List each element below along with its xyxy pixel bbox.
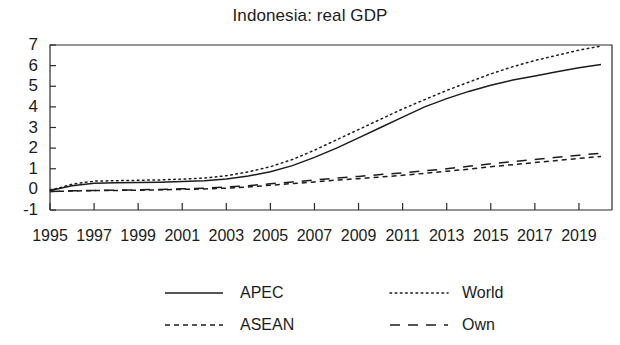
plot-frame [50, 45, 612, 210]
y-tick-label: 3 [4, 119, 38, 136]
y-tick-label: 7 [4, 36, 38, 53]
legend-label-asean: ASEAN [240, 317, 294, 333]
x-tick-label: 2019 [556, 228, 602, 244]
legend-marks [165, 293, 448, 325]
series-lines [50, 46, 601, 191]
x-tick-label: 2001 [159, 228, 205, 244]
x-tick-label: 2007 [291, 228, 337, 244]
plot-canvas [0, 0, 620, 345]
x-tick-label: 2011 [380, 228, 426, 244]
x-tick-label: 1999 [115, 228, 161, 244]
y-tick-label: 5 [4, 77, 38, 94]
x-tick-label: 2009 [336, 228, 382, 244]
y-tick-label: 1 [4, 160, 38, 177]
chart-figure: Indonesia: real GDP -101234567 199519971… [0, 0, 620, 345]
x-tick-label: 2003 [203, 228, 249, 244]
y-tick-label: 2 [4, 139, 38, 156]
legend-label-apec: APEC [240, 285, 284, 301]
y-tick-label: 0 [4, 180, 38, 197]
series-line-own [50, 153, 601, 191]
x-tick-label: 1995 [27, 228, 73, 244]
series-line-apec [50, 65, 601, 191]
legend-label-world: World [462, 285, 504, 301]
y-tick-label: 4 [4, 98, 38, 115]
x-tick-label: 2017 [512, 228, 558, 244]
x-tick-label: 2013 [424, 228, 470, 244]
series-line-world [50, 46, 601, 190]
y-tick-label: 6 [4, 57, 38, 74]
legend-label-own: Own [462, 317, 495, 333]
x-tick-label: 2005 [247, 228, 293, 244]
chart-title: Indonesia: real GDP [0, 6, 620, 26]
x-tick-label: 2015 [468, 228, 514, 244]
y-tick-label: -1 [4, 201, 38, 218]
axes [50, 45, 612, 210]
x-tick-label: 1997 [71, 228, 117, 244]
